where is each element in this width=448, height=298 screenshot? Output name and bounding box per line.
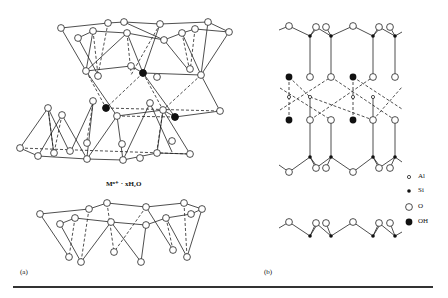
diagram-canvas xyxy=(0,0,448,298)
legend-si: Si xyxy=(418,186,424,194)
o-legend-icon xyxy=(406,204,413,211)
panel-b-structure xyxy=(279,26,402,236)
legend-oh: OH xyxy=(418,217,428,225)
bottom-rule xyxy=(13,286,433,288)
panel-a-bottom-sheet xyxy=(40,203,202,262)
si-legend-icon xyxy=(407,189,411,193)
panel-b-label: (b) xyxy=(264,268,272,276)
oh-legend-icon xyxy=(406,219,413,226)
legend-symbols xyxy=(406,175,413,225)
legend-al: Al xyxy=(418,172,425,180)
panel-a-label: (a) xyxy=(20,268,28,276)
interlayer-formula: Mⁿ⁺ · xH₂O xyxy=(106,180,141,188)
panel-b-al-atoms xyxy=(287,95,374,98)
legend-o: O xyxy=(418,202,423,210)
al-legend-icon xyxy=(407,175,410,178)
panel-b-si-oh-atoms xyxy=(286,34,397,238)
panel-a-atoms xyxy=(17,19,233,266)
panel-b-o-atoms xyxy=(286,23,399,227)
